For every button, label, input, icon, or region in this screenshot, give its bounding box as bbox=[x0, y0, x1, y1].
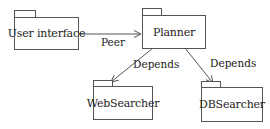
dbsearcher-label: DBSearcher bbox=[199, 98, 265, 111]
package-diagram: User interface Planner WebSearcher DBSea… bbox=[0, 0, 270, 129]
user-interface-label: User interface bbox=[8, 27, 85, 40]
planner-label: Planner bbox=[153, 26, 195, 39]
depends-edge-label-websearcher: Depends bbox=[133, 58, 179, 70]
depends-edge-label-dbsearcher: Depends bbox=[210, 57, 256, 69]
websearcher-label: WebSearcher bbox=[87, 97, 160, 110]
websearcher-package: WebSearcher bbox=[93, 86, 153, 120]
peer-edge-label: Peer bbox=[101, 36, 125, 48]
user-interface-package: User interface bbox=[14, 17, 79, 50]
depends-edge-dbsearcher bbox=[185, 48, 213, 83]
planner-package: Planner bbox=[142, 15, 206, 49]
dbsearcher-package: DBSearcher bbox=[201, 87, 263, 122]
